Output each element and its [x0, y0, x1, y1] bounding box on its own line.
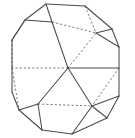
polyhedron-figure: [0, 0, 135, 138]
polyhedron-wireframe-svg: [0, 0, 135, 138]
